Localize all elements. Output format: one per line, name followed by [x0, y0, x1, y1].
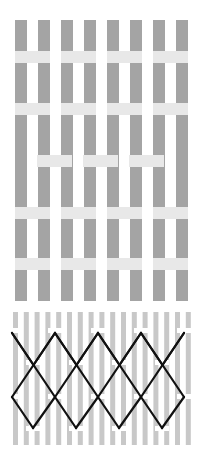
horizontal-band-segment — [15, 258, 50, 270]
top-bar-grid — [15, 20, 188, 301]
horizontal-band-segment — [153, 207, 188, 219]
horizontal-band-segment — [83, 155, 118, 167]
horizontal-band-segment — [61, 103, 96, 115]
horizontal-band-segment — [15, 103, 50, 115]
horizontal-band-segment — [153, 103, 188, 115]
horizontal-band-segment — [61, 258, 96, 270]
horizontal-band-segment — [15, 51, 50, 63]
horizontal-band-segment — [153, 51, 188, 63]
horizontal-band-segment — [61, 207, 96, 219]
weave-pattern-figure — [0, 0, 205, 458]
horizontal-band-segment — [153, 258, 188, 270]
horizontal-band-segment — [107, 207, 142, 219]
pattern-canvas — [0, 0, 205, 458]
horizontal-band-segment — [129, 155, 164, 167]
vertex-tabs — [5, 328, 191, 431]
horizontal-band-segment — [61, 51, 96, 63]
horizontal-band-segment — [107, 103, 142, 115]
horizontal-band-segment — [107, 258, 142, 270]
horizontal-band-segment — [37, 155, 72, 167]
horizontal-band-segment — [15, 207, 50, 219]
horizontal-band-segment — [107, 51, 142, 63]
